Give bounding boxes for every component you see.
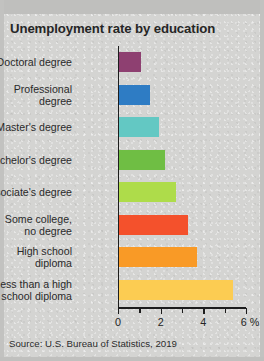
bar — [118, 85, 150, 105]
bar-row: Professional degree — [0, 79, 264, 112]
plot-area: Doctoral degreeProfessional degreeMaster… — [0, 46, 264, 308]
bar-category-label: Less than a high school diploma — [0, 278, 72, 302]
bar-row: Doctoral degree — [0, 46, 264, 79]
bar-row: Some college, no degree — [0, 209, 264, 242]
bar — [118, 247, 197, 267]
x-axis-tick-label: 2 — [158, 316, 164, 328]
bar — [118, 182, 176, 202]
bar-category-label: High school diploma — [0, 245, 72, 269]
x-axis-tick — [246, 308, 247, 314]
bar — [118, 215, 188, 235]
bar — [118, 117, 159, 137]
y-axis-line — [118, 46, 119, 308]
bar-category-label: Master's degree — [0, 121, 72, 133]
bar — [118, 280, 233, 300]
bar-category-label: Some college, no degree — [0, 213, 72, 237]
x-axis-minor-tick — [225, 308, 226, 313]
x-axis-minor-tick — [139, 308, 140, 313]
bar-row: Bachelor's degree — [0, 144, 264, 177]
chart-title: Unemployment rate by education — [10, 21, 215, 36]
x-axis-tick — [203, 308, 204, 314]
bar-row: High school diploma — [0, 241, 264, 274]
bar-category-label: Professional degree — [0, 83, 72, 107]
bar-row: Less than a high school diploma — [0, 274, 264, 307]
x-axis-tick-label: 6 % — [241, 316, 260, 328]
bar — [118, 150, 165, 170]
bar-category-label: Doctoral degree — [0, 56, 72, 68]
page-edge-bottom — [0, 357, 264, 361]
bar-row: Master's degree — [0, 111, 264, 144]
bar-row: Associate's degree — [0, 176, 264, 209]
source-note: Source: U.S. Bureau of Statistics, 2019 — [9, 338, 177, 349]
bar-category-label: Associate's degree — [0, 186, 72, 198]
bar — [118, 52, 141, 72]
bar-category-label: Bachelor's degree — [0, 154, 72, 166]
x-axis-tick — [118, 308, 119, 314]
x-axis-tick-label: 4 — [200, 316, 206, 328]
x-axis-minor-tick — [182, 308, 183, 313]
x-axis-tick-label: 0 — [115, 316, 121, 328]
chart-page: Unemployment rate by education Doctoral … — [0, 0, 264, 361]
x-axis-tick — [161, 308, 162, 314]
page-edge-top — [0, 0, 264, 14]
